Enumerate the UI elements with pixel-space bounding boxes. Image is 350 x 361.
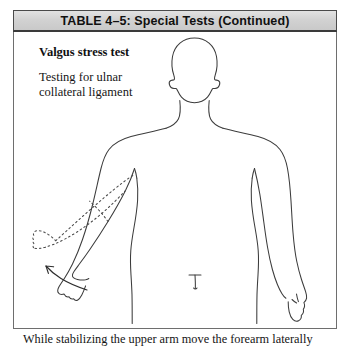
right-arm-inner [255,169,286,299]
table-header: TABLE 4–5: Special Tests (Continued) [13,10,337,32]
right-shoulder-arm-outer [223,128,307,298]
table-header-title: TABLE 4–5: Special Tests (Continued) [61,14,290,28]
right-hand-knuckle-crease [292,300,297,304]
caption-text: While stabilizing the upper arm move the… [13,332,313,347]
dotted-forearm-lower-edge [56,175,134,241]
left-shoulder-arm-outer [58,128,166,292]
right-hand-thumb-crease [297,294,299,302]
right-torso-side [251,178,258,324]
test-description-line-1: Testing for ulnar [39,70,122,84]
dotted-elbow-crease [90,201,108,221]
figure-root: TABLE 4–5: Special Tests (Continued) [0,0,350,361]
left-armpit-notch [135,169,137,179]
test-description-line-2: collateral ligament [39,85,132,99]
neck-right-line [209,101,223,129]
right-armpit-notch [252,169,254,179]
left-arm-inner [72,169,134,281]
arrow-shaft [46,266,87,290]
test-label-block: Valgus stress test Testing for ulnar col… [39,45,179,100]
left-torso-side [130,178,137,324]
neck-left-line [166,101,180,129]
right-hand-outline [288,298,306,321]
caption-bar: While stabilizing the upper arm move the… [13,328,337,349]
movement-direction-arrow [46,266,87,290]
test-name-heading: Valgus stress test [39,45,179,59]
test-description: Testing for ulnar collateral ligament [39,70,159,100]
